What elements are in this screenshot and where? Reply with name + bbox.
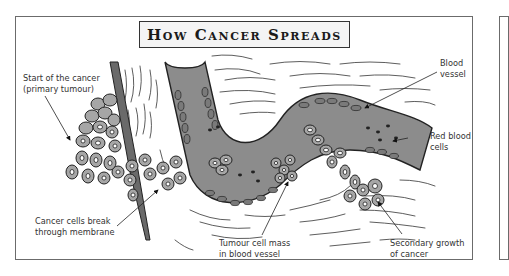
label-blood-vessel: Blood vessel [440, 58, 466, 79]
label-red-blood-cells: Red blood cells [430, 131, 471, 152]
label-line: Blood [440, 58, 466, 69]
label-line: Secondary growth [390, 238, 464, 249]
leader-secondary-growth [378, 202, 402, 234]
label-line: in blood vessel [219, 249, 290, 260]
label-line: (primary tumour) [23, 84, 100, 95]
label-break-membrane: Cancer cells break through membrane [35, 216, 115, 237]
leader-primary-tumour [45, 96, 70, 140]
label-tumour-mass: Tumour cell mass in blood vessel [219, 238, 290, 259]
label-line: through membrane [35, 227, 115, 238]
label-line: vessel [440, 69, 466, 80]
label-secondary-growth: Secondary growth of cancer [390, 238, 464, 259]
label-line: of cancer [390, 249, 464, 260]
label-line: Start of the cancer [23, 73, 100, 84]
label-line: cells [430, 142, 471, 153]
label-line: Cancer cells break [35, 216, 115, 227]
label-line: Tumour cell mass [219, 238, 290, 249]
label-primary-tumour: Start of the cancer (primary tumour) [23, 73, 100, 94]
diagram-title: How Cancer Spreads [147, 26, 342, 44]
title-box: How Cancer Spreads [139, 21, 350, 48]
label-line: Red blood [430, 131, 471, 142]
